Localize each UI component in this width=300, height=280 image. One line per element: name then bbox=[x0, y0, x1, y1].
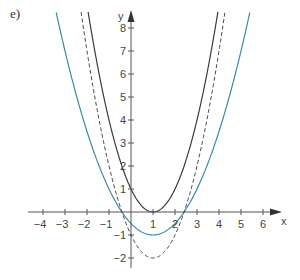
y-tick-label: 8 bbox=[120, 22, 126, 34]
x-tick-label: 3 bbox=[194, 218, 200, 230]
y-tick-label: −1 bbox=[113, 229, 126, 241]
x-tick-label: −3 bbox=[56, 218, 69, 230]
x-tick-label: 4 bbox=[216, 218, 222, 230]
y-tick-label: 4 bbox=[120, 114, 126, 126]
y-axis-label: y bbox=[118, 10, 124, 22]
y-tick-label: −2 bbox=[113, 252, 126, 264]
x-tick-label: 5 bbox=[238, 218, 244, 230]
x-tick-label: −2 bbox=[78, 218, 91, 230]
x-axis-label: x bbox=[281, 215, 287, 227]
y-tick-label: 3 bbox=[120, 137, 126, 149]
y-tick-label: 7 bbox=[120, 45, 126, 57]
ticks: −4−3−2−1123456−2−112345678 bbox=[34, 22, 266, 264]
parabola-chart: x y −4−3−2−1123456−2−112345678 bbox=[0, 0, 300, 280]
y-tick-label: 6 bbox=[120, 68, 126, 80]
x-tick-label: 2 bbox=[172, 218, 178, 230]
x-tick-label: −4 bbox=[34, 218, 47, 230]
y-axis-arrow-icon bbox=[128, 10, 135, 22]
x-tick-label: 6 bbox=[260, 218, 266, 230]
curve-2 bbox=[56, 12, 250, 235]
y-tick-label: 5 bbox=[120, 91, 126, 103]
x-tick-label: 1 bbox=[150, 218, 156, 230]
curve-1 bbox=[88, 12, 218, 212]
x-tick-label: −1 bbox=[100, 218, 113, 230]
y-tick-label: 2 bbox=[120, 160, 126, 172]
y-tick-label: 1 bbox=[120, 183, 126, 195]
